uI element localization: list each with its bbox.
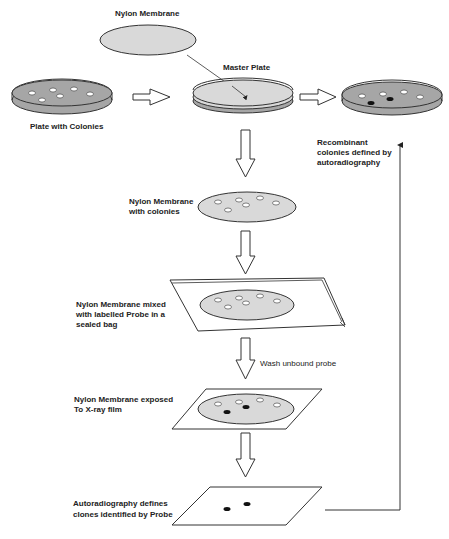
label-sealed-bag-3: sealed bag [76,320,117,329]
label-recombinant-2: colonies defined by [317,148,392,157]
xray-film [172,389,322,429]
arrow-right-1 [133,89,170,105]
label-master-plate: Master Plate [223,63,271,72]
arrow-right-2 [300,89,336,105]
nylon-membrane-top [100,25,196,55]
label-xray-2: To X-ray film [74,405,122,414]
arrow-down-4 [236,433,255,477]
label-sealed-bag-2: with labelled Probe in a [75,310,165,319]
label-recombinant-1: Recombinant [317,138,368,147]
label-autorad-2: clones identified by Probe [73,510,173,519]
sealed-bag [170,278,345,331]
label-membrane-colonies-2: with colonies [128,207,180,216]
plate-with-colonies [12,79,112,114]
arrow-down-1 [236,130,255,177]
diagram-svg: Nylon Membrane Plate with Colonies Maste… [0,0,449,539]
autoradiograph [172,487,322,525]
label-membrane-colonies-1: Nylon Membrane [129,197,194,206]
label-recombinant-3: autoradiography [317,158,381,167]
label-plate-with-colonies: Plate with Colonies [30,122,104,131]
label-sealed-bag-1: Nylon Membrane mixed [76,300,166,309]
arrow-down-2 [236,231,255,274]
label-nylon-membrane-top: Nylon Membrane [115,9,180,18]
membrane-with-colonies [198,192,296,222]
label-xray-1: Nylon Membrane exposed [74,395,173,404]
label-wash: Wash unbound probe [260,359,337,368]
arrow-down-3 [236,338,255,379]
recombinant-plate [342,80,442,115]
diagram-canvas: Nylon Membrane Plate with Colonies Maste… [0,0,449,539]
return-arrow [325,145,400,510]
label-autorad-1: Autoradiography defines [73,499,168,508]
master-plate [193,78,293,113]
